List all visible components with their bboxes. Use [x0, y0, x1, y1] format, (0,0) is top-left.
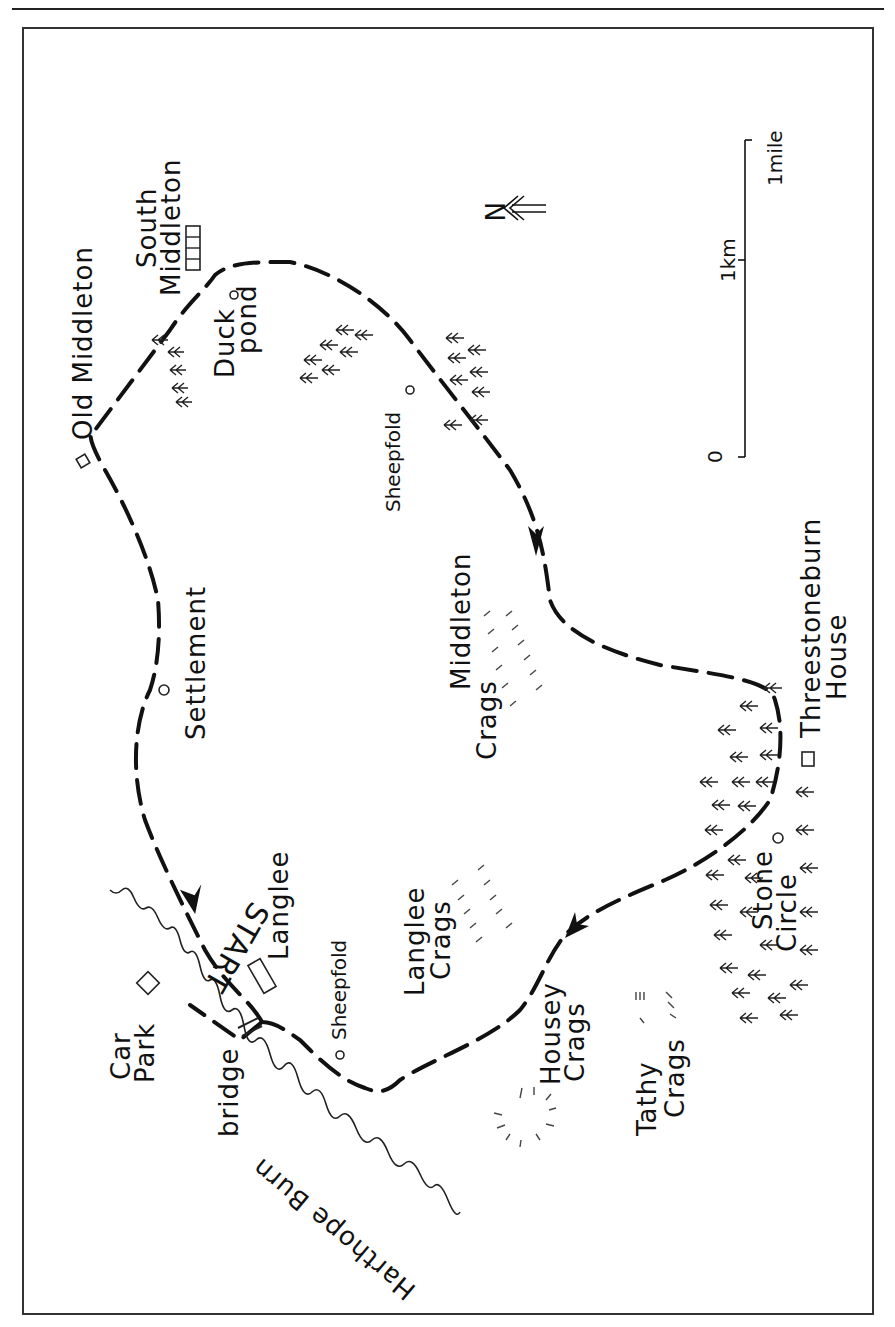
woodland-north-icon	[152, 335, 192, 407]
sheepfold-north-icon	[406, 386, 414, 394]
route-arrow-icon	[565, 912, 589, 938]
svg-text:N: N	[479, 202, 509, 222]
label-harthope-burn: Harthope Burn	[246, 1152, 421, 1306]
stone-circle-icon	[773, 833, 783, 843]
housey-crags-hatching	[494, 1087, 556, 1147]
label-langlee: Langlee	[264, 850, 294, 960]
label-old-middleton: Old Middleton	[68, 246, 98, 440]
scale-bar: 0 1km 1mile	[703, 130, 787, 463]
label-middleton-crags: Middleton	[446, 553, 476, 690]
label-housey-crags: Crags	[560, 1002, 590, 1082]
label-car-park: Park	[130, 1023, 160, 1083]
label-settlement: Settlement	[181, 586, 211, 740]
label-middleton-crags: Crags	[472, 680, 502, 760]
label-tathy-crags: Tathy	[632, 1061, 662, 1137]
langlee-crags-hatching	[452, 865, 512, 942]
label-tathy-crags: Crags	[660, 1038, 690, 1118]
settlement-icon	[159, 685, 169, 695]
tathy-crags-hatching	[636, 992, 676, 1023]
label-langlee-crags: Crags	[426, 900, 456, 980]
label-sheepfold-south: Sheepfold	[327, 940, 351, 1040]
scale-mile-label: 1mile	[763, 130, 787, 186]
north-arrow-icon: N	[479, 196, 546, 222]
woodland-middle-icon	[300, 325, 373, 383]
sheepfold-south-icon	[336, 1051, 344, 1059]
car-park-icon	[137, 972, 160, 995]
walk-map: N 0 1km 1mile Old Middleton South Middle…	[0, 0, 895, 1327]
scale-km-label: 1km	[716, 238, 740, 282]
label-bridge: bridge	[214, 1048, 244, 1137]
scale-zero-label: 0	[703, 450, 727, 463]
route-arrow-icon	[180, 882, 210, 916]
label-duck-pond: pond	[232, 285, 262, 354]
old-middleton-building	[76, 454, 90, 468]
label-sheepfold-north: Sheepfold	[381, 412, 405, 512]
langlee-building	[248, 959, 276, 994]
label-threestoneburn-house: House	[822, 614, 852, 700]
label-south-middleton: Middleton	[156, 159, 186, 296]
threestoneburn-house-building	[802, 752, 814, 766]
label-stone-circle: Circle	[772, 873, 802, 952]
